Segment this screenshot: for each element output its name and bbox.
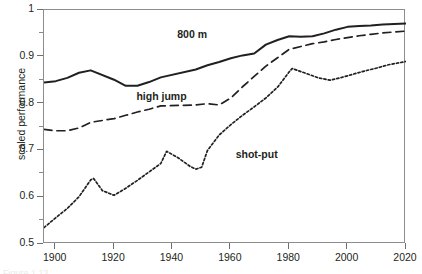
y-tick-label: 0.8 [0,97,34,108]
x-tick-label: 1960 [218,252,241,263]
series-line-800-m [44,24,406,86]
y-tick-label: 1 [0,3,34,14]
y-axis-title: scaled performance [15,39,27,189]
y-tick-label: 0.9 [0,50,34,61]
series-label-shot-put: shot-put [236,149,278,160]
x-tick-label: 1940 [160,252,183,263]
series-line-shot-put [44,61,406,227]
x-tick-label: 2000 [335,252,358,263]
x-tick-label: 1980 [277,252,300,263]
plot-area [43,9,405,243]
y-tick-label: 0.6 [0,190,34,201]
caption-sliver: Figure 1.12 [3,269,49,274]
series-label-800-m: 800 m [177,29,207,40]
y-tick-label: 0.7 [0,143,34,154]
y-tick-label: 0.5 [0,237,34,248]
x-tick-label: 1900 [43,252,66,263]
series-lines-svg [44,10,406,244]
series-line-high-jump [44,31,406,131]
x-tick-label: 1920 [101,252,124,263]
series-label-high-jump: high jump [136,91,186,102]
x-tick-label: 2020 [393,252,416,263]
chart-figure: scaled performance 0.50.60.70.80.91 1900… [0,0,422,274]
